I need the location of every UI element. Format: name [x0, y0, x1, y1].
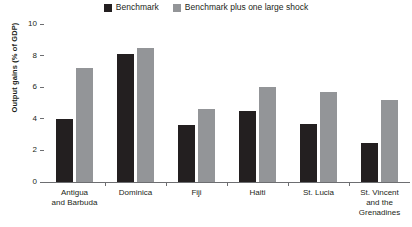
legend-label-benchmark-shock: Benchmark plus one large shock [185, 3, 308, 12]
bar [239, 111, 256, 182]
x-axis-separator-tick [227, 182, 228, 186]
x-axis-separator-tick [105, 182, 106, 186]
bar [300, 124, 317, 182]
bar [137, 48, 154, 182]
legend-label-benchmark: Benchmark [116, 3, 159, 12]
bar-group [105, 24, 166, 182]
x-axis-separator-tick [288, 182, 289, 186]
y-axis-tick-label: 2 [24, 146, 37, 154]
legend-entry-benchmark: Benchmark [104, 3, 159, 12]
legend-entry-benchmark-shock: Benchmark plus one large shock [173, 3, 308, 12]
x-axis-separator-tick [349, 182, 350, 186]
bar-group-bars [105, 24, 166, 182]
x-axis-label-line: Dominica [106, 188, 165, 198]
x-axis-label-line: and the [350, 198, 409, 208]
x-axis-label-line: Haiti [228, 188, 287, 198]
y-axis-tick: 8 [24, 52, 44, 60]
bar [198, 109, 215, 182]
bar-group [166, 24, 227, 182]
x-axis-label-line: St. Vincent [350, 188, 409, 198]
bar-group-bars [166, 24, 227, 182]
y-axis-tick-label: 8 [24, 52, 37, 60]
x-axis-label: St. Lucia [288, 188, 349, 218]
x-axis-labels: Antiguaand BarbudaDominicaFijiHaitiSt. L… [44, 188, 410, 218]
x-axis-label: Antiguaand Barbuda [44, 188, 105, 218]
x-axis-label-line: Antigua [45, 188, 104, 198]
x-axis-label-line: and Barbuda [45, 198, 104, 208]
x-axis-separator-tick [166, 182, 167, 186]
x-axis-label: St. Vincentand theGrenadines [349, 188, 410, 218]
bar-group [349, 24, 410, 182]
bar [381, 100, 398, 182]
legend-swatch-benchmark-shock [173, 4, 181, 12]
y-axis-tick: 6 [24, 83, 44, 91]
bar-group [227, 24, 288, 182]
bar-groups [44, 24, 410, 182]
bar [178, 125, 195, 182]
bar [76, 68, 93, 182]
y-axis-tick-label: 0 [24, 178, 37, 186]
bar-group [288, 24, 349, 182]
y-axis-tick: 10 [24, 20, 44, 28]
bar [56, 119, 73, 182]
y-axis-tick-label: 10 [24, 20, 37, 28]
y-axis-tick-label: 6 [24, 83, 37, 91]
y-axis-tick-label: 4 [24, 115, 37, 123]
plot-area: 1086420 [44, 24, 410, 182]
bar-group-bars [227, 24, 288, 182]
bar [361, 143, 378, 183]
chart-legend: Benchmark Benchmark plus one large shock [0, 3, 412, 12]
x-axis-label: Haiti [227, 188, 288, 218]
bar-group-bars [349, 24, 410, 182]
y-axis-tick: 0 [24, 178, 44, 186]
x-axis-label-line: Grenadines [350, 208, 409, 218]
x-axis-label: Dominica [105, 188, 166, 218]
bar-group-bars [44, 24, 105, 182]
x-axis-label-line: Fiji [167, 188, 226, 198]
y-axis-tick: 2 [24, 146, 44, 154]
bar-group-bars [288, 24, 349, 182]
x-axis-label-line: St. Lucia [289, 188, 348, 198]
bar [320, 92, 337, 182]
x-axis-label: Fiji [166, 188, 227, 218]
y-axis-title: Output gains (% of GDP) [10, 3, 19, 133]
bar-chart: Benchmark Benchmark plus one large shock… [0, 0, 412, 227]
bar [117, 54, 134, 182]
bar [259, 87, 276, 182]
legend-swatch-benchmark [104, 4, 112, 12]
y-axis-tick: 4 [24, 115, 44, 123]
bar-group [44, 24, 105, 182]
